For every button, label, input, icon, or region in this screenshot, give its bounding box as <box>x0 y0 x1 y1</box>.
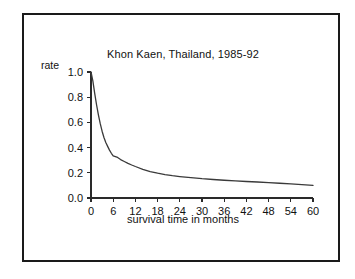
y-tick-label: 0.8 <box>68 91 83 103</box>
y-tick-label: 0.2 <box>68 167 83 179</box>
y-axis-group: 0.00.20.40.60.81.0 <box>68 66 91 204</box>
y-tick-label: 0.4 <box>68 142 83 154</box>
y-tick-label: 1.0 <box>68 66 83 78</box>
y-tick-label: 0.6 <box>68 116 83 128</box>
figure-frame: Khon Kaen, Thailand, 1985-92 rate 0.00.2… <box>22 13 340 262</box>
survival-rate-line <box>91 72 313 185</box>
plot-svg: 0.00.20.40.60.81.0 06121824303642485460 <box>24 15 342 264</box>
survival-curve-chart: Khon Kaen, Thailand, 1985-92 rate 0.00.2… <box>24 15 342 264</box>
y-tick-group: 0.00.20.40.60.81.0 <box>68 66 91 204</box>
x-axis-label: survival time in months <box>24 213 342 225</box>
y-tick-label: 0.0 <box>68 192 83 204</box>
